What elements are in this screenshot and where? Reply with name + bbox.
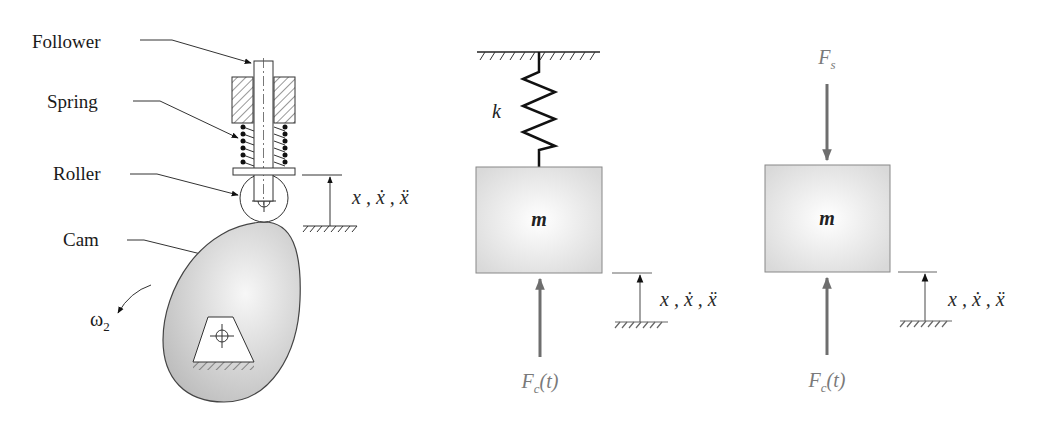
- cam-leader-arrow-icon: [127, 240, 205, 255]
- guide-block-left: [232, 77, 253, 123]
- displacement-label: x , ẋ , ẍ: [947, 288, 1005, 310]
- cam-follower-panel: Follower Spring Roller Cam ω2: [32, 31, 409, 402]
- spring-leader-arrow-icon: [133, 101, 238, 138]
- spring-label: Spring: [47, 91, 98, 112]
- fixed-support-hatch-icon: [480, 52, 595, 60]
- cam-follower-dynamic-model-figure: Follower Spring Roller Cam ω2: [0, 0, 1048, 437]
- omega-label: ω2: [90, 308, 110, 334]
- roller-label: Roller: [53, 163, 101, 184]
- guide-block-right: [274, 77, 295, 123]
- roller-leader-arrow-icon: [130, 174, 238, 195]
- displacement-indicator: [898, 272, 952, 327]
- cam-force-label: Fc(t): [521, 370, 559, 396]
- cam-body: [163, 222, 300, 402]
- displacement-label: x , ẋ , ẍ: [351, 186, 409, 208]
- spring-mass-panel: k m Fc(t) x , ẋ , ẍ: [476, 52, 717, 396]
- follower-leader-arrow-icon: [140, 40, 251, 63]
- mass-label: m: [819, 207, 835, 229]
- mass-label: m: [531, 208, 547, 230]
- cam-force-label: Fc(t): [808, 369, 846, 395]
- cam-pivot-ground-hatch: [193, 362, 254, 370]
- free-body-panel: Fs m Fc(t) x , ẋ , ẍ: [765, 46, 1005, 395]
- displacement-label: x , ẋ , ẍ: [659, 288, 717, 310]
- spring-icon: [523, 52, 555, 167]
- cam-label: Cam: [63, 229, 99, 250]
- spring-force-label: Fs: [817, 46, 835, 72]
- rotation-arrow-icon: [118, 285, 151, 313]
- ground-hatch-icon: [900, 321, 947, 327]
- spring-constant-label: k: [492, 100, 502, 122]
- spring-plate: [233, 168, 295, 175]
- ground-hatch-icon: [303, 226, 357, 232]
- follower-label: Follower: [32, 31, 101, 52]
- displacement-indicator: [302, 175, 357, 232]
- ground-hatch-icon: [615, 322, 662, 328]
